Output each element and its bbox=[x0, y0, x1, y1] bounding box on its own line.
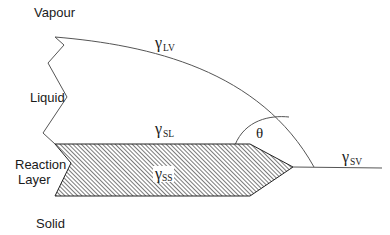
vapour-label: Vapour bbox=[34, 5, 76, 20]
contact-angle-theta: θ bbox=[256, 125, 263, 141]
svg-text:γ: γ bbox=[154, 120, 162, 138]
reaction-label-line1: Reaction bbox=[15, 157, 66, 172]
solid-vapour-line bbox=[293, 167, 382, 168]
gamma-sv-label: γ SV bbox=[341, 148, 362, 167]
reaction-label-line2: Layer bbox=[18, 172, 51, 187]
wetting-diagram: Vapour Liquid Reaction Layer Solid γ LV … bbox=[0, 0, 390, 235]
gamma-sl-label: γ SL bbox=[154, 120, 174, 139]
svg-text:LV: LV bbox=[163, 43, 175, 53]
solid-label: Solid bbox=[36, 216, 65, 231]
gamma-ss-label: γ SS bbox=[153, 165, 174, 183]
svg-text:SS: SS bbox=[162, 173, 173, 183]
svg-text:γ: γ bbox=[154, 165, 162, 183]
svg-text:SV: SV bbox=[350, 157, 362, 167]
liquid-label: Liquid bbox=[30, 90, 65, 105]
svg-text:γ: γ bbox=[154, 34, 162, 52]
svg-text:γ: γ bbox=[341, 148, 349, 166]
svg-text:SL: SL bbox=[163, 129, 174, 139]
gamma-lv-label: γ LV bbox=[154, 34, 175, 53]
